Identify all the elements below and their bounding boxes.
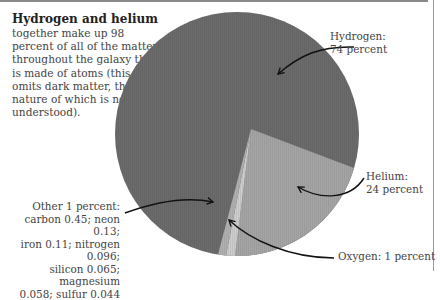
other-line-3: iron 0.11; nitrogen 0.096; — [2, 238, 120, 263]
helium-name: Helium: — [366, 170, 423, 183]
other-line-4: silicon 0.065; magnesium — [2, 263, 120, 288]
other-line-1: Other 1 percent: — [2, 200, 120, 213]
other-line-2: carbon 0.45; neon 0.13; — [2, 213, 120, 238]
other-line-5: 0.058; sulfur 0.044 — [2, 288, 120, 300]
label-hydrogen: Hydrogen: 74 percent — [330, 30, 387, 55]
label-helium: Helium: 24 percent — [366, 170, 423, 195]
helium-value: 24 percent — [366, 183, 423, 196]
label-other: Other 1 percent: carbon 0.45; neon 0.13;… — [2, 200, 120, 300]
label-oxygen: Oxygen: 1 percent — [338, 250, 435, 263]
hydrogen-name: Hydrogen: — [330, 30, 387, 43]
hydrogen-value: 74 percent — [330, 43, 387, 56]
